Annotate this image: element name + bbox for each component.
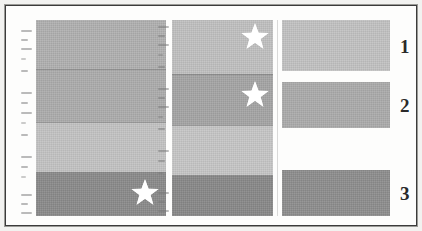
- legend-label-2: 2: [400, 96, 410, 115]
- panel-left-band-2: [36, 69, 166, 122]
- panel-left-band-3: [36, 122, 166, 172]
- panel-left-rule-1: [36, 69, 166, 70]
- star-icon-panel-middle-band-1: [240, 22, 270, 52]
- legend-swatch-2: [282, 82, 390, 128]
- legend-swatch-1: [282, 20, 390, 71]
- panel-middle-band-4: [172, 175, 273, 216]
- legend-label-3: 3: [400, 184, 410, 203]
- star-icon-panel-middle-band-2: [240, 80, 270, 110]
- star-icon-panel-left-band-4: [130, 178, 160, 208]
- panel-middle-band-3: [172, 125, 273, 175]
- panel-middle-rule-1: [172, 74, 273, 75]
- axis-gutter-middle: [157, 20, 171, 216]
- legend-label-1: 1: [400, 37, 410, 56]
- figure-root: 1 2 3: [0, 0, 422, 231]
- axis-gutter-left: [20, 20, 34, 216]
- panel-left-rule-2: [36, 122, 166, 123]
- panel-middle-rule-2: [172, 125, 273, 126]
- legend-divider: [277, 20, 278, 216]
- legend-swatch-3: [282, 170, 390, 216]
- plot-area: 1 2 3: [0, 0, 422, 231]
- panel-left-band-1: [36, 20, 166, 69]
